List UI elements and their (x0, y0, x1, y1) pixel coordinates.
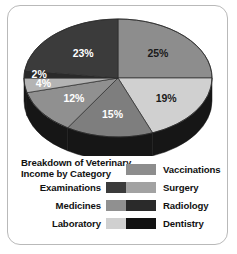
chart-card: 25%19%15%12%4%2%23% Breakdown of Veterin… (7, 5, 228, 245)
legend-item-label: Medicines (56, 200, 102, 211)
legend-item[interactable]: Dentistry (126, 216, 204, 230)
chart-legend: Breakdown of Veterinary Income by Catego… (8, 154, 229, 246)
legend-swatch (126, 218, 156, 229)
legend-item-label: Vaccinations (163, 164, 220, 175)
legend-item[interactable]: Vaccinations (126, 162, 220, 176)
legend-item-label: Laboratory (52, 218, 101, 229)
pie-chart: 25%19%15%12%4%2%23% (8, 6, 229, 156)
legend-item[interactable]: Medicines (56, 198, 137, 212)
legend-swatch (126, 200, 156, 211)
legend-item-label: Examinations (40, 182, 101, 193)
legend-swatch (126, 182, 156, 193)
legend-item[interactable]: Laboratory (52, 216, 136, 230)
pie-chart-svg: 25%19%15%12%4%2%23% (8, 6, 229, 156)
legend-title-line-2: Income by Category (21, 168, 111, 179)
legend-title-line-1: Breakdown of Veterinary (21, 157, 131, 168)
legend-title: Breakdown of Veterinary Income by Catego… (21, 157, 136, 180)
legend-item[interactable]: Examinations (40, 180, 136, 194)
legend-item[interactable]: Radiology (126, 198, 208, 212)
legend-item-label: Dentistry (163, 218, 204, 229)
legend-swatch (126, 164, 156, 175)
legend-item-label: Radiology (163, 200, 208, 211)
legend-item[interactable]: Surgery (126, 180, 199, 194)
legend-item-label: Surgery (163, 182, 199, 193)
